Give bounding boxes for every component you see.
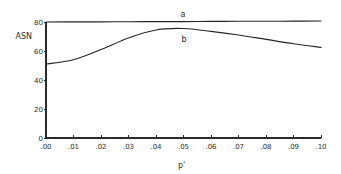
x-tick-label: .03: [123, 143, 134, 151]
y-tick-label: 60: [34, 48, 43, 56]
y-tick-label: 40: [34, 77, 43, 85]
x-tick-label: .02: [95, 143, 106, 151]
asn-chart-figure: 020406080 .00.01.02.03.04.05.06.07.08.09…: [0, 0, 341, 174]
x-tick-label: .00: [40, 143, 51, 151]
x-tick-label: .09: [288, 143, 299, 151]
x-tick-label: .04: [150, 143, 162, 151]
x-axis-label: p': [178, 161, 185, 170]
x-tick-label: .07: [233, 143, 244, 151]
series-b-curve: [46, 28, 321, 64]
series-a-curve: [46, 21, 321, 22]
x-axis-ticks: .00.01.02.03.04.05.06.07.08.09.10: [40, 135, 326, 151]
y-tick-label: 80: [34, 19, 43, 27]
series-b-label: b: [181, 35, 186, 44]
series-a-label: a: [181, 10, 186, 19]
x-tick-label: .05: [178, 143, 189, 151]
y-axis-label: ASN: [16, 32, 33, 41]
x-tick-label: .06: [205, 143, 217, 151]
x-tick-label: .10: [315, 143, 326, 151]
chart-canvas: 020406080 .00.01.02.03.04.05.06.07.08.09…: [0, 0, 341, 174]
y-axis-ticks: 020406080: [34, 19, 46, 143]
x-tick-label: .01: [68, 143, 79, 151]
x-tick-label: .08: [260, 143, 271, 151]
y-tick-label: 0: [39, 135, 43, 143]
y-tick-label: 20: [34, 106, 43, 114]
